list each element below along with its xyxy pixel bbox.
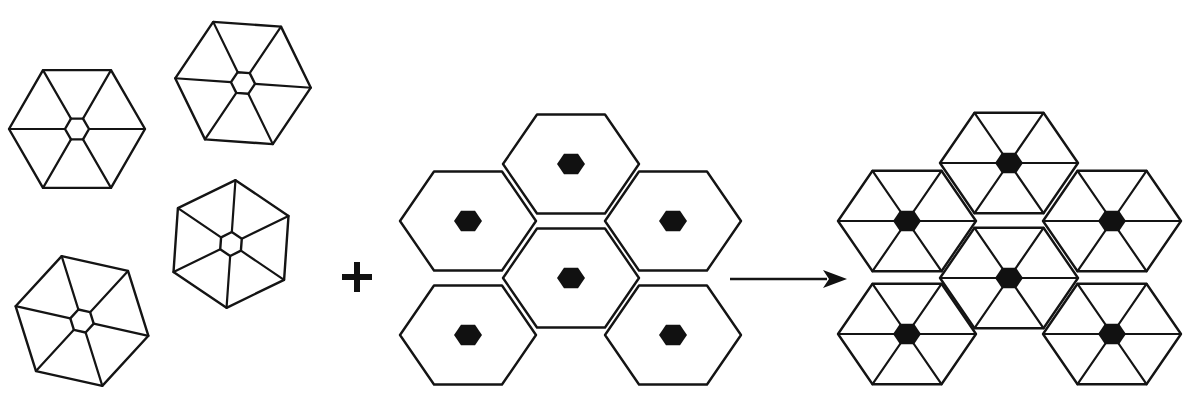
spoke-line — [213, 22, 238, 72]
filled-node-icon — [557, 268, 585, 288]
filled-node-icon — [1098, 211, 1126, 231]
hexagon-subunit — [16, 256, 149, 386]
spoke-line — [43, 70, 71, 118]
hexagon-subunit — [9, 70, 145, 188]
spoke-line — [205, 93, 236, 139]
spoke-line — [250, 27, 281, 73]
lattice-cell — [400, 172, 536, 271]
spoke-line — [62, 256, 79, 309]
spoke-line — [178, 208, 221, 237]
central-pore — [231, 72, 255, 94]
hexagon-subunit — [173, 180, 288, 308]
hexagon-outline — [175, 22, 311, 144]
reaction-arrow-icon — [730, 270, 847, 288]
spoke-line — [248, 94, 273, 144]
spoke-line — [36, 330, 74, 371]
central-pore — [65, 119, 89, 140]
product-lattice-group — [838, 113, 1181, 384]
spoke-line — [16, 306, 71, 318]
spoke-line — [227, 256, 231, 308]
filled-node-icon — [995, 153, 1023, 173]
filled-node-icon — [1098, 324, 1126, 344]
plus-vertical-bar — [354, 262, 360, 292]
spoke-line — [242, 216, 289, 239]
spoke-line — [175, 78, 231, 82]
plus-operator-icon — [342, 262, 372, 292]
hexagon-outline — [174, 180, 289, 308]
spoke-line — [94, 324, 149, 336]
lattice-cell — [503, 115, 639, 214]
filled-node-icon — [454, 325, 482, 345]
spoke-line — [232, 180, 236, 232]
filled-node-icon — [893, 211, 921, 231]
central-pore — [70, 310, 93, 333]
spoke-line — [255, 84, 311, 88]
filled-node-icon — [557, 154, 585, 174]
hexagon-outline — [16, 256, 149, 386]
spoke-line — [83, 70, 111, 118]
template-lattice-group — [400, 115, 741, 385]
spoke-line — [83, 139, 111, 187]
spoke-line — [173, 249, 220, 272]
filled-node-icon — [659, 211, 687, 231]
filled-node-icon — [454, 211, 482, 231]
spoke-line — [241, 251, 284, 280]
spoke-line — [43, 139, 71, 187]
hexagon-subunit — [175, 22, 311, 144]
filled-node-icon — [659, 325, 687, 345]
filled-node-icon — [893, 324, 921, 344]
building-block-group — [9, 22, 311, 386]
diagram-canvas — [0, 0, 1186, 412]
lattice-cell — [503, 229, 639, 328]
spoke-line — [90, 271, 128, 312]
lattice-cell — [400, 286, 536, 385]
lattice-cell — [605, 172, 741, 271]
lattice-cell — [605, 286, 741, 385]
filled-node-icon — [995, 268, 1023, 288]
spoke-line — [86, 332, 103, 385]
central-pore — [220, 232, 242, 256]
